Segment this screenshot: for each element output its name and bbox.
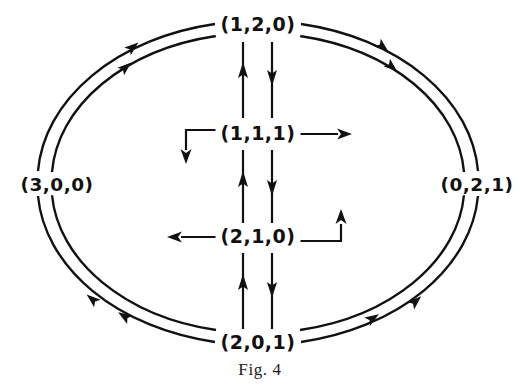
arrowhead-upper-left-inner: [117, 59, 134, 76]
arc-upper-right-outer: [301, 24, 478, 171]
edge-pair-top-to-mid1: [243, 42, 272, 118]
figure-container: (1,2,0) (1,1,1) (2,1,0) (2,0,1) (3,0,0) …: [0, 0, 520, 388]
arrowhead-lower-right-outer: [407, 293, 424, 310]
arc-lower-right-outer: [301, 196, 478, 342]
arc-upper-right-inner: [300, 36, 464, 172]
arc-upper-left-inner: [52, 36, 216, 172]
stub-mid1-left-down: [186, 130, 219, 150]
arc-arrowheads: [83, 39, 424, 326]
arrowhead-lower-left-inner: [115, 308, 132, 324]
stub-mid2-right-up: [297, 224, 341, 241]
arrowhead-mid1-right: [337, 129, 352, 140]
node-label-2-0-1[interactable]: (2,0,1): [216, 332, 301, 354]
node-label-0-2-1[interactable]: (0,2,1): [435, 174, 518, 195]
arrowhead-mid2-right-up: [336, 209, 347, 224]
node-label-1-2-0[interactable]: (1,2,0): [216, 14, 301, 36]
node-label-3-0-0[interactable]: (3,0,0): [15, 174, 98, 195]
figure-caption: Fig. 4: [0, 360, 520, 380]
arrowhead-mid2-left: [167, 232, 182, 243]
node-label-1-1-1[interactable]: (1,1,1): [216, 123, 301, 145]
arc-lower-left-inner: [52, 195, 216, 330]
arc-upper-left-outer: [38, 24, 215, 171]
node-label-2-1-0[interactable]: (2,1,0): [216, 226, 301, 248]
edge-pair-mid2-to-bottom: [243, 253, 272, 329]
arrowhead-lower-left-outer: [83, 291, 100, 308]
arc-lower-right-inner: [300, 195, 464, 330]
arrowhead-mid1-left-down: [181, 149, 192, 164]
